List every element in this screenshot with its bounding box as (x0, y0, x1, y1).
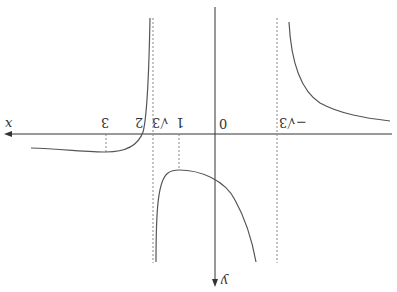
curve-branch-middle (156, 170, 256, 262)
curve-branch-right (31, 18, 150, 152)
y-axis-arrow-icon (212, 279, 218, 287)
origin-label: 0 (219, 117, 227, 130)
tick-label-sqrt3: √3 (152, 116, 169, 129)
function-graph (0, 0, 397, 292)
curve-branch-left (289, 22, 390, 121)
x-axis-label: x (5, 118, 12, 131)
tick-label-2: 2 (135, 116, 143, 129)
tick-label-1: 1 (176, 116, 184, 129)
y-axis-label: y (221, 275, 228, 288)
tick-label-neg-sqrt3: −√3 (279, 116, 306, 129)
tick-label-3: 3 (101, 116, 109, 129)
